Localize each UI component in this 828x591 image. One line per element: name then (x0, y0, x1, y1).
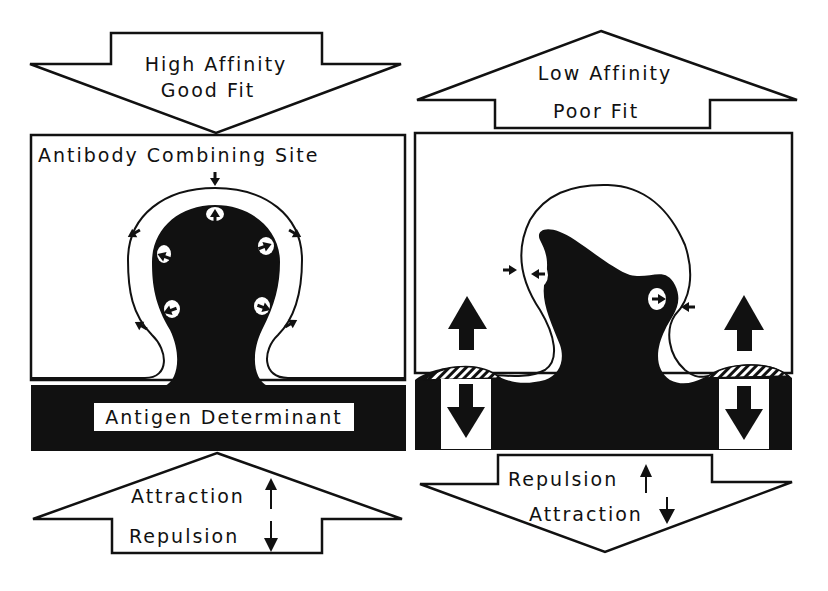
low-affinity-label: Low Affinity (538, 62, 672, 84)
right-panel: Low Affinity Poor Fit (415, 31, 797, 552)
attraction-label: Attraction (131, 485, 245, 507)
high-affinity-label: High Affinity (145, 53, 288, 75)
antibody-affinity-diagram: High Affinity Good Fit Antibody Combinin… (0, 0, 828, 591)
repulsion-label: Repulsion (129, 525, 239, 547)
poor-fit-label: Poor Fit (553, 100, 639, 122)
attraction-label-right: Attraction (529, 503, 643, 525)
attraction-repulsion-arrow: Attraction Repulsion (33, 453, 402, 553)
antigen-determinant-label: Antigen Determinant (105, 406, 343, 428)
low-affinity-arrow: Low Affinity Poor Fit (417, 31, 797, 128)
good-fit-label: Good Fit (161, 79, 255, 101)
repulsion-attraction-arrow: Repulsion Attraction (420, 455, 792, 552)
repulsion-label-right: Repulsion (508, 468, 618, 490)
antibody-combining-site-label: Antibody Combining Site (38, 144, 319, 166)
left-panel: High Affinity Good Fit Antibody Combinin… (30, 33, 406, 553)
high-affinity-arrow: High Affinity Good Fit (30, 33, 401, 133)
